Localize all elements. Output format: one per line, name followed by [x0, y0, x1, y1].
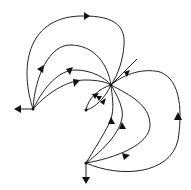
phase-portrait-diagram — [0, 0, 191, 190]
arrowhead-left-4 — [73, 79, 80, 87]
arrowhead-inner-2 — [100, 98, 106, 105]
arrowhead-left-2 — [37, 65, 44, 73]
node-inner — [85, 109, 88, 112]
node-left — [32, 108, 35, 111]
trajectory-left-outer — [27, 16, 124, 109]
trajectory-bottom-4 — [86, 71, 180, 172]
trajectory-left-3 — [33, 70, 111, 109]
arrowhead-bottom-1 — [108, 117, 115, 124]
arrowhead-bottom-3 — [122, 153, 130, 160]
arrowhead-left-outer — [84, 12, 90, 20]
arrowhead-left-exit — [14, 105, 21, 113]
arrowhead-bottom-exit — [82, 177, 90, 184]
arrowhead-bottom-4 — [174, 112, 182, 120]
node-center — [110, 84, 113, 87]
node-bottom — [85, 162, 88, 165]
trajectory-left-4 — [33, 80, 111, 109]
